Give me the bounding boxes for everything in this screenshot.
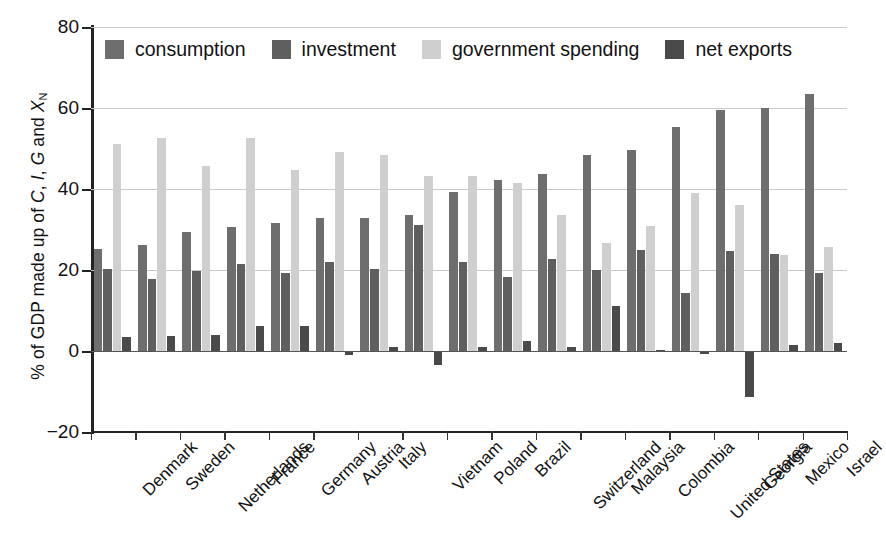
- x-axis-label-georgia: Georgia: [759, 437, 816, 494]
- bar-group: [269, 27, 313, 432]
- legend-item-net-exports: net exports: [665, 38, 791, 61]
- y-axis-tick-label: 20: [58, 259, 79, 281]
- bar-government-spending: [468, 176, 477, 351]
- bar-group: [447, 27, 491, 432]
- bar-government-spending: [157, 138, 166, 351]
- bar-consumption: [227, 227, 236, 351]
- bar-group: [714, 27, 758, 432]
- bar-consumption: [761, 108, 770, 351]
- bar-investment: [637, 250, 646, 351]
- bar-group: [491, 27, 535, 432]
- bar-consumption: [405, 215, 414, 351]
- y-axis-tick: [82, 351, 91, 353]
- bar-consumption: [716, 110, 725, 351]
- bar-consumption: [583, 155, 592, 351]
- bar-net-exports: [300, 326, 309, 352]
- legend-item-government-spending: government spending: [422, 38, 640, 61]
- y-axis-tick-label: −20: [47, 421, 79, 443]
- bar-investment: [726, 251, 735, 351]
- bar-investment: [459, 262, 468, 351]
- bar-group: [669, 27, 713, 432]
- legend-swatch-icon: [272, 40, 291, 59]
- bar-investment: [770, 254, 779, 351]
- y-axis-tick-label: 80: [58, 16, 79, 38]
- bar-government-spending: [557, 215, 566, 351]
- bar-consumption: [538, 174, 547, 351]
- plot-area: −20020406080: [91, 27, 847, 432]
- bar-investment: [148, 279, 157, 351]
- bar-government-spending: [691, 193, 700, 351]
- bar-consumption: [805, 94, 814, 351]
- bar-consumption: [138, 245, 147, 351]
- legend-label: net exports: [695, 38, 791, 61]
- bar-government-spending: [380, 155, 389, 351]
- bar-group: [180, 27, 224, 432]
- bar-group: [803, 27, 847, 432]
- bar-investment: [237, 264, 246, 351]
- bar-consumption: [271, 223, 280, 351]
- y-axis-tick: [82, 432, 91, 434]
- bar-group: [536, 27, 580, 432]
- bar-government-spending: [602, 243, 611, 351]
- bar-net-exports: [612, 306, 621, 351]
- bar-investment: [503, 277, 512, 351]
- bar-investment: [414, 225, 423, 351]
- legend-swatch-icon: [105, 40, 124, 59]
- x-axis-labels: DenmarkSwedenNetherlandsFranceGermanyAus…: [91, 436, 847, 541]
- bar-consumption: [449, 192, 458, 351]
- bar-group: [313, 27, 357, 432]
- bar-government-spending: [291, 170, 300, 351]
- bar-government-spending: [824, 247, 833, 351]
- bar-investment: [281, 273, 290, 351]
- legend-label: consumption: [135, 38, 246, 61]
- bar-government-spending: [780, 255, 789, 351]
- bar-consumption: [672, 127, 681, 351]
- legend-item-consumption: consumption: [105, 38, 246, 61]
- bar-group: [758, 27, 802, 432]
- x-axis-line: [91, 431, 847, 433]
- bar-government-spending: [646, 226, 655, 351]
- bar-consumption: [182, 232, 191, 351]
- bar-investment: [548, 259, 557, 351]
- y-axis-title: % of GDP made up of C, I, G and XN: [24, 26, 52, 446]
- legend: consumptioninvestmentgovernment spending…: [105, 38, 818, 61]
- bar-government-spending: [513, 183, 522, 351]
- legend-label: government spending: [452, 38, 640, 61]
- bar-government-spending: [735, 205, 744, 351]
- x-axis-label-israel: Israel: [843, 437, 886, 481]
- bar-net-exports: [434, 351, 443, 365]
- bar-investment: [815, 273, 824, 351]
- legend-swatch-icon: [422, 40, 441, 59]
- bar-investment: [681, 293, 690, 351]
- y-axis-tick: [82, 270, 91, 272]
- x-axis-tick: [847, 431, 848, 440]
- bar-government-spending: [202, 166, 211, 351]
- bar-consumption: [316, 218, 325, 351]
- y-axis-tick-label: 60: [58, 97, 79, 119]
- bar-consumption: [627, 150, 636, 351]
- bar-consumption: [494, 180, 503, 351]
- y-axis-tick-label: 40: [58, 178, 79, 200]
- bar-investment: [592, 270, 601, 351]
- legend-label: investment: [302, 38, 396, 61]
- bar-group: [224, 27, 268, 432]
- legend-item-investment: investment: [272, 38, 396, 61]
- x-axis-label-brazil: Brazil: [532, 437, 576, 481]
- y-axis-tick: [82, 189, 91, 191]
- bar-consumption: [94, 249, 103, 351]
- bar-investment: [325, 262, 334, 351]
- bar-net-exports: [211, 335, 220, 351]
- bar-group: [625, 27, 669, 432]
- bar-investment: [192, 271, 201, 351]
- bar-net-exports: [122, 337, 131, 351]
- bar-government-spending: [335, 152, 344, 351]
- bar-investment: [103, 269, 112, 351]
- y-axis-tick-label: 0: [68, 340, 79, 362]
- zero-baseline: [91, 351, 847, 353]
- bar-government-spending: [113, 144, 122, 351]
- bar-group: [402, 27, 446, 432]
- bar-group: [91, 27, 135, 432]
- bar-consumption: [360, 218, 369, 351]
- bar-investment: [370, 269, 379, 351]
